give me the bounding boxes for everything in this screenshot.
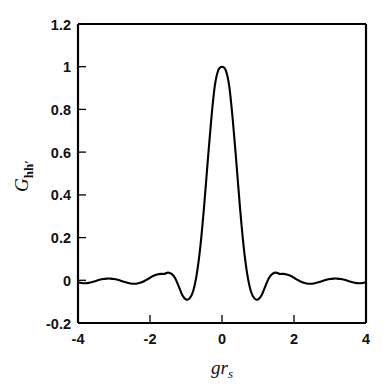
y-tick-label: 0.4 <box>51 187 71 203</box>
y-axis-label-main: G <box>11 178 32 192</box>
y-axis-label-sub: hh′ <box>21 160 36 178</box>
y-tick-label: 1.2 <box>51 17 71 33</box>
x-axis-label-sub: s <box>228 366 233 381</box>
y-tick-label: -0.2 <box>46 316 71 332</box>
line-chart: -4 -2 0 2 4 -0.2 0 0.2 0.4 0.6 0.8 1 1.2… <box>0 0 387 388</box>
y-tick-label: 0.6 <box>51 145 71 161</box>
x-tick-label: -4 <box>72 331 85 347</box>
y-tick-label: 0 <box>63 273 71 289</box>
y-tick-label: 0.2 <box>51 230 71 246</box>
x-tick-label: 2 <box>290 331 298 347</box>
x-tick-label: 4 <box>362 331 370 347</box>
chart-figure: -4 -2 0 2 4 -0.2 0 0.2 0.4 0.6 0.8 1 1.2… <box>0 0 387 388</box>
x-axis-label-main: gr <box>211 357 229 378</box>
y-tick-label: 1 <box>63 59 71 75</box>
y-tick-label: 0.8 <box>51 102 71 118</box>
x-tick-label: 0 <box>218 331 226 347</box>
x-tick-label: -2 <box>144 331 157 347</box>
